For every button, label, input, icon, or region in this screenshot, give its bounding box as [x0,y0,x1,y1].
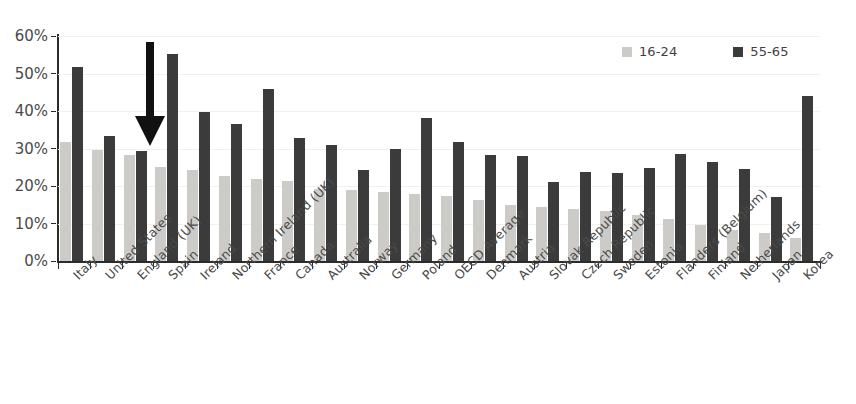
bar-55-65 [580,172,591,261]
x-axis-tick-mark [122,263,123,269]
bar-group [473,36,501,261]
x-axis-tick-mark [820,263,821,269]
bar-55-65 [390,149,401,261]
y-axis-tick-label: 50% [0,65,48,83]
bar-55-65 [72,67,83,261]
bar-group [759,36,787,261]
x-axis-tick-mark [249,263,250,269]
bar-16-24 [409,194,420,261]
bar-group [409,36,437,261]
x-axis-tick-mark [344,263,345,269]
bar-group [187,36,215,261]
bar-55-65 [548,182,559,261]
x-axis-tick-mark [90,263,91,269]
bar-55-65 [263,89,274,261]
y-axis-tick-label: 30% [0,140,48,158]
bar-group [314,36,342,261]
x-axis-tick-mark [58,263,59,269]
bar-16-24 [60,142,71,261]
x-axis-tick-mark [757,263,758,269]
bar-16-24 [536,207,547,261]
x-axis-tick-mark [788,263,789,269]
bar-16-24 [473,200,484,261]
bar-groups [58,36,820,261]
bar-55-65 [358,170,369,261]
bar-16-24 [632,215,643,262]
down-arrow-icon [133,42,167,147]
bar-55-65 [802,96,813,261]
bar-group [219,36,247,261]
y-axis-tick: 60% [0,27,57,45]
x-axis-tick-mark [312,263,313,269]
bar-16-24 [155,167,166,261]
y-axis-tick: 0% [0,252,57,270]
y-axis-tick-mark [51,148,56,149]
bar-55-65 [421,118,432,261]
x-axis-tick-mark [471,263,472,269]
bar-55-65 [199,112,210,261]
bar-group [505,36,533,261]
bar-16-24 [346,190,357,261]
bar-55-65 [167,54,178,261]
y-axis-tick-label: 20% [0,177,48,195]
y-axis-tick: 50% [0,65,57,83]
plot-area [58,36,820,261]
bar-group [663,36,691,261]
bar-chart: 16-24 55-65 60%50%40%30%20%10%0% ItalyUn… [0,0,856,404]
bar-16-24 [219,176,230,261]
bar-16-24 [282,181,293,261]
bar-group [536,36,564,261]
bar-16-24 [505,205,516,261]
bar-16-24 [790,238,801,261]
x-axis-tick-mark [534,263,535,269]
bar-55-65 [104,136,115,261]
bar-55-65 [453,142,464,261]
y-axis-tick-label: 0% [0,252,48,270]
x-axis-tick-mark [503,263,504,269]
bar-group [282,36,310,261]
bar-16-24 [92,150,103,261]
bar-group [441,36,469,261]
bar-16-24 [695,225,706,261]
x-axis-tick-mark [598,263,599,269]
bar-16-24 [600,211,611,261]
bar-55-65 [136,151,147,261]
x-axis-tick-mark [661,263,662,269]
x-axis-tick-mark [407,263,408,269]
x-axis-tick-mark [630,263,631,269]
down-arrow-annotation [133,42,167,147]
y-axis-tick-label: 60% [0,27,48,45]
x-axis-tick-mark [439,263,440,269]
bar-group [727,36,755,261]
y-axis-tick-mark [51,36,56,37]
y-axis-tick: 40% [0,102,57,120]
bar-16-24 [759,233,770,262]
y-axis-tick: 10% [0,215,57,233]
bar-group [346,36,374,261]
bar-16-24 [124,155,135,261]
bar-55-65 [294,138,305,261]
y-axis-tick-mark [51,223,56,224]
x-axis-tick-mark [376,263,377,269]
bar-55-65 [771,197,782,261]
y-axis-tick-label: 10% [0,215,48,233]
x-axis-tick-mark [566,263,567,269]
x-axis-tick-mark [280,263,281,269]
x-axis-tick-mark [217,263,218,269]
bar-55-65 [612,173,623,262]
bar-group [695,36,723,261]
bar-group [632,36,660,261]
bar-16-24 [187,170,198,261]
y-axis-tick-mark [51,73,56,74]
bar-55-65 [485,155,496,261]
bar-group [60,36,88,261]
bar-group [600,36,628,261]
y-axis-tick: 30% [0,140,57,158]
bar-16-24 [441,196,452,261]
bar-16-24 [727,230,738,261]
bar-55-65 [675,154,686,261]
x-axis-tick-mark [725,263,726,269]
bar-55-65 [517,156,528,261]
x-axis-tick-mark [185,263,186,269]
bar-16-24 [251,179,262,262]
